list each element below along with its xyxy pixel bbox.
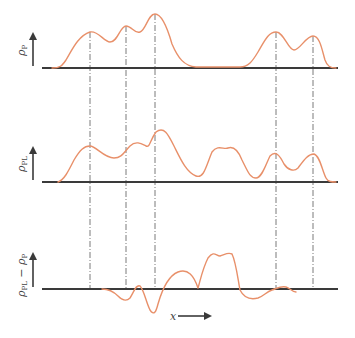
curve-rho-pl	[58, 130, 336, 182]
label-rho-p: ρP	[15, 45, 29, 57]
vertical-marker-lines	[90, 14, 313, 289]
label-rho-pl: ρPL	[15, 156, 29, 173]
curve-rho-difference	[102, 253, 296, 313]
x-axis-label: x	[170, 310, 177, 323]
curve-rho-p	[52, 14, 336, 68]
panel-middle: ρPL	[15, 130, 338, 182]
panel-top: ρP	[15, 14, 338, 68]
electron-density-diagram: ρP ρPL ρPL − ρP x	[0, 0, 355, 338]
label-rho-pl-minus-rho-p: ρPL − ρP	[15, 253, 29, 298]
panel-bottom: ρPL − ρP	[15, 253, 338, 313]
x-axis-indicator: x	[170, 310, 208, 323]
